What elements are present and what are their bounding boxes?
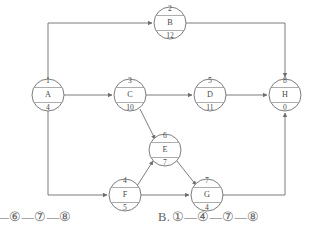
answer-option-b-label: B. — [158, 210, 170, 224]
node-c-duration: 10 — [126, 103, 134, 112]
node-c-number: 3 — [128, 76, 132, 85]
edge-a-to-f — [48, 111, 107, 195]
node-a[interactable]: 1 A 4 — [32, 76, 64, 112]
node-d-number: 5 — [208, 76, 212, 85]
node-a-duration: 4 — [46, 103, 50, 112]
node-e-activity: E — [162, 145, 167, 154]
node-d-duration: 11 — [206, 103, 214, 112]
answer-options-row: )—⑥—⑦—⑧ B.①—④—⑦—⑧ — [0, 205, 310, 227]
node-b[interactable]: 2 B 12 — [154, 4, 186, 40]
node-g-number: 7 — [205, 176, 209, 185]
node-c-activity: C — [127, 90, 133, 99]
answer-option-b-text: ①—④—⑦—⑧ — [172, 210, 260, 224]
network-diagram-canvas: 2 B 12 1 A 4 3 C 10 5 D — [0, 0, 310, 228]
node-g-activity: G — [204, 190, 210, 199]
edge-f-to-e — [137, 161, 153, 186]
edge-group — [48, 23, 285, 195]
answer-option-partial[interactable]: )—⑥—⑦—⑧ — [0, 209, 72, 225]
edge-b-to-h — [186, 23, 285, 77]
node-b-duration: 12 — [166, 31, 174, 40]
network-diagram: 2 B 12 1 A 4 3 C 10 5 D — [0, 0, 310, 228]
node-d-activity: D — [207, 90, 213, 99]
node-f-activity: F — [123, 190, 128, 199]
node-a-number: 1 — [46, 76, 50, 85]
node-c[interactable]: 3 C 10 — [114, 76, 146, 112]
node-f-number: 4 — [123, 176, 127, 185]
node-h-activity: H — [282, 90, 288, 99]
answer-option-partial-text: )—⑥—⑦—⑧ — [0, 210, 72, 224]
edge-g-to-h — [223, 113, 285, 195]
node-a-activity: A — [45, 90, 51, 99]
node-d[interactable]: 5 D 11 — [194, 76, 226, 112]
edge-a-to-b — [48, 23, 152, 79]
node-h-number: 8 — [283, 76, 287, 85]
node-e-number: 6 — [163, 131, 167, 140]
edge-e-to-g — [177, 161, 196, 185]
answer-option-b[interactable]: B.①—④—⑦—⑧ — [158, 209, 260, 225]
node-b-activity: B — [167, 18, 173, 27]
node-h[interactable]: 8 H 0 — [269, 76, 301, 112]
node-e-duration: 7 — [163, 158, 167, 167]
node-b-number: 2 — [168, 4, 172, 13]
edge-c-to-e — [140, 109, 155, 139]
node-h-duration: 0 — [283, 103, 287, 112]
